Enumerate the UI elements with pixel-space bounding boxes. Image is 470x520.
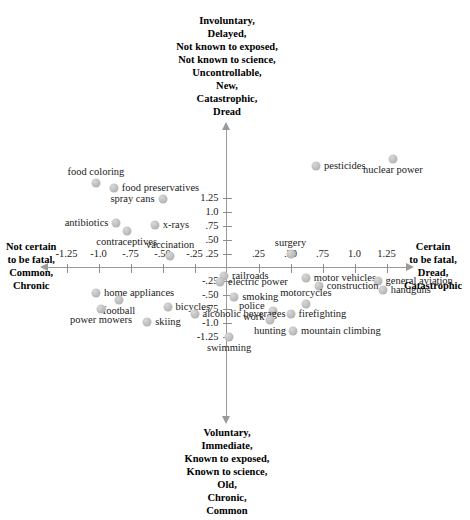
scatter-point-label: hunting	[254, 325, 286, 336]
scatter-point-label: electric power	[228, 276, 288, 287]
y-axis-tick	[223, 240, 232, 241]
scatter-point-label: mountain climbing	[301, 325, 381, 336]
scatter-point-label: vaccination	[146, 240, 194, 251]
y-axis-tick-label: .75	[189, 221, 219, 232]
scatter-point[interactable]	[143, 317, 152, 326]
y-axis-up-arrow-icon	[222, 122, 230, 130]
scatter-point-label: food preservatives	[122, 182, 199, 193]
x-axis-tick	[131, 264, 132, 273]
x-axis-tick	[291, 264, 292, 273]
scatter-point[interactable]	[378, 285, 387, 294]
scatter-point[interactable]	[289, 326, 298, 335]
scatter-point[interactable]	[312, 162, 321, 171]
y-axis-tick	[223, 323, 232, 324]
scatter-point[interactable]	[286, 250, 295, 259]
y-axis-tick	[223, 212, 232, 213]
scatter-point[interactable]	[166, 252, 175, 261]
axis-pole-top-label: Involuntary,Delayed,Not known to exposed…	[176, 14, 278, 118]
x-axis-tick-label: -1.25	[56, 249, 78, 260]
scatter-point-label: power mowers	[70, 314, 132, 325]
scatter-point[interactable]	[109, 183, 118, 192]
scatter-point-label: nuclear power	[363, 165, 423, 176]
y-axis-tick-label: -1.25	[189, 332, 219, 343]
scatter-point[interactable]	[158, 194, 167, 203]
x-axis-tick-label: 1.25	[377, 249, 395, 260]
scatter-point-label: pesticides	[324, 161, 365, 172]
y-axis-tick-label: 1.0	[189, 207, 219, 218]
scatter-point[interactable]	[301, 300, 310, 309]
scatter-point-label: antibiotics	[65, 218, 109, 229]
scatter-point[interactable]	[286, 310, 295, 319]
scatter-point[interactable]	[112, 219, 121, 228]
scatter-point[interactable]	[114, 295, 123, 304]
scatter-point-label: spray cans	[110, 193, 154, 204]
scatter-point[interactable]	[91, 179, 100, 188]
x-axis-tick-label: .25	[252, 249, 265, 260]
x-axis-tick	[67, 264, 68, 273]
y-axis-tick-label: -.50	[189, 290, 219, 301]
risk-perception-scatter-plot: -1.25-1.0-.75-.50-.25.25.50.751.01.251.2…	[0, 0, 470, 520]
scatter-point[interactable]	[150, 221, 159, 230]
scatter-point[interactable]	[230, 293, 239, 302]
scatter-point-label: firefighting	[299, 309, 347, 320]
scatter-point[interactable]	[388, 155, 397, 164]
y-axis-tick-label: 1.25	[189, 193, 219, 204]
x-axis-tick	[195, 264, 196, 273]
scatter-point-label: motorcycles	[280, 288, 331, 299]
y-axis-tick	[223, 254, 232, 255]
y-axis-tick	[223, 198, 232, 199]
scatter-point-label: skiing	[155, 316, 181, 327]
x-axis-tick	[387, 264, 388, 273]
scatter-point[interactable]	[266, 315, 275, 324]
scatter-point[interactable]	[122, 226, 131, 235]
scatter-point[interactable]	[190, 310, 199, 319]
scatter-point[interactable]	[91, 289, 100, 298]
scatter-point[interactable]	[97, 304, 106, 313]
x-axis-tick-label: -.75	[122, 249, 139, 260]
scatter-point-label: surgery	[275, 238, 306, 249]
y-axis-tick-label: -.25	[189, 276, 219, 287]
x-axis-tick	[99, 264, 100, 273]
scatter-point[interactable]	[163, 303, 172, 312]
x-axis-tick-label: 1.0	[348, 249, 361, 260]
axis-pole-left-label: Not certainto be fatal,Common,Chronic	[6, 240, 56, 292]
scatter-point[interactable]	[225, 333, 234, 342]
scatter-point[interactable]	[301, 274, 310, 283]
y-axis-tick	[223, 226, 232, 227]
scatter-point-label: construction	[327, 281, 379, 292]
scatter-point-label: food coloring	[68, 167, 125, 178]
x-axis-tick-label: .75	[316, 249, 329, 260]
x-axis-tick-label: -1.0	[90, 249, 107, 260]
scatter-point[interactable]	[216, 277, 225, 286]
scatter-point-label: swimming	[207, 343, 251, 354]
scatter-point-label: x-rays	[163, 220, 189, 231]
axis-pole-right-label: Certainto be fatal,Dread,Catastrophic	[404, 240, 462, 292]
x-axis-tick	[355, 264, 356, 273]
x-axis-tick	[163, 264, 164, 273]
x-axis-tick	[323, 264, 324, 273]
axis-pole-bottom-label: Voluntary,Immediate,Known to exposed,Kno…	[185, 426, 270, 517]
y-axis-down-arrow-icon	[222, 416, 230, 424]
